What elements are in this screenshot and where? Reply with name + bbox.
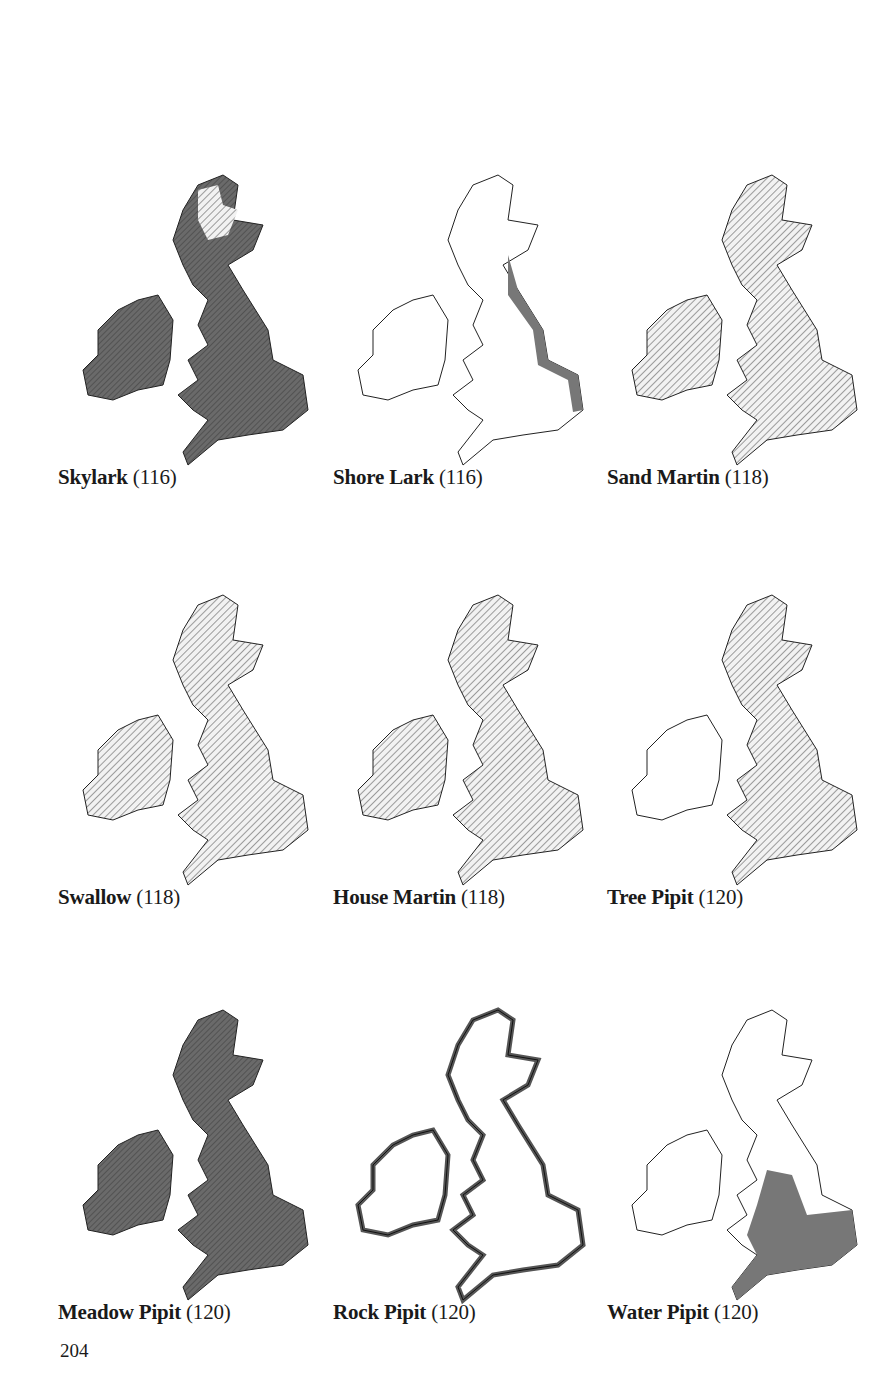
- map-house-martin: [333, 510, 593, 890]
- map-caption: Swallow (118): [58, 885, 180, 910]
- map-skylark: [58, 90, 318, 470]
- map-meadow-pipit: [58, 925, 318, 1305]
- map-caption: Rock Pipit (120): [333, 1300, 476, 1325]
- page-number: 204: [60, 1340, 89, 1362]
- map-caption: Shore Lark (116): [333, 465, 483, 490]
- map-panel-tree-pipit: Tree Pipit (120): [607, 510, 867, 910]
- map-caption: Sand Martin (118): [607, 465, 769, 490]
- map-caption: House Martin (118): [333, 885, 505, 910]
- map-tree-pipit: [607, 510, 867, 890]
- map-caption: Tree Pipit (120): [607, 885, 743, 910]
- map-shore-lark: [333, 90, 593, 470]
- map-caption: Meadow Pipit (120): [58, 1300, 231, 1325]
- map-sand-martin: [607, 90, 867, 470]
- map-rock-pipit: [333, 925, 593, 1305]
- map-panel-house-martin: House Martin (118): [333, 510, 593, 910]
- map-panel-sand-martin: Sand Martin (118): [607, 90, 867, 490]
- map-panel-skylark: Skylark (116): [58, 90, 318, 490]
- map-panel-shore-lark: Shore Lark (116): [333, 90, 593, 490]
- map-panel-swallow: Swallow (118): [58, 510, 318, 910]
- map-swallow: [58, 510, 318, 890]
- map-panel-water-pipit: Water Pipit (120): [607, 925, 867, 1325]
- map-panel-rock-pipit: Rock Pipit (120): [333, 925, 593, 1325]
- map-caption: Water Pipit (120): [607, 1300, 758, 1325]
- map-caption: Skylark (116): [58, 465, 177, 490]
- map-water-pipit: [607, 925, 867, 1305]
- map-panel-meadow-pipit: Meadow Pipit (120): [58, 925, 318, 1325]
